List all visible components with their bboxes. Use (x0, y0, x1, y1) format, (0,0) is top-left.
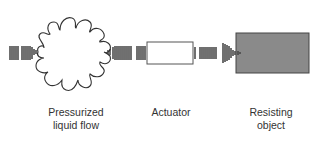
output-flow-stripes (108, 46, 145, 60)
force-stripes (200, 47, 216, 59)
input-flow-stripes (10, 46, 36, 60)
liquid-loop-icon (36, 18, 110, 91)
label-line: liquid flow (40, 119, 112, 132)
label-line: object (238, 119, 304, 132)
label-pressurized-liquid-flow: Pressurized liquid flow (40, 106, 112, 131)
label-resisting-object: Resisting object (238, 106, 304, 131)
label-actuator: Actuator (140, 106, 202, 119)
label-line: Resisting (238, 106, 304, 119)
actuator-box (147, 42, 193, 64)
force-cone-icon (223, 43, 235, 63)
label-line: Actuator (140, 106, 202, 119)
label-line: Pressurized (40, 106, 112, 119)
resisting-object-box (236, 33, 309, 73)
